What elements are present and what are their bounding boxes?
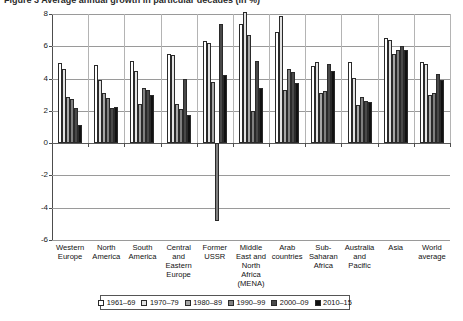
legend: 1961–691970–791980–891990–992000–092010–…: [100, 295, 350, 310]
legend-item[interactable]: 2000–09: [271, 299, 308, 307]
group-separator: [450, 14, 451, 143]
category-label: FormerUSSR: [197, 243, 233, 261]
legend-swatch-icon: [98, 300, 104, 306]
category-axis-labels: WesternEuropeNorthAmericaSouthAmericaCen…: [52, 243, 450, 301]
x-tick-mark: [305, 143, 306, 147]
x-tick-mark: [161, 143, 162, 147]
x-tick-mark: [197, 143, 198, 147]
group-separator: [378, 14, 379, 143]
legend-label: 2000–09: [280, 299, 309, 307]
group-separator: [341, 14, 342, 143]
legend-swatch-icon: [315, 300, 321, 306]
category-label: WesternEurope: [52, 243, 88, 261]
bar: [259, 88, 263, 143]
legend-label: 1980–89: [193, 299, 222, 307]
x-tick-mark: [341, 143, 342, 147]
figure-caption: Figure 3 Average annual growth in partic…: [0, 0, 463, 9]
group-separator: [88, 14, 89, 143]
bar: [215, 143, 219, 220]
bar: [404, 50, 408, 144]
x-tick-mark: [414, 143, 415, 147]
x-tick-mark: [269, 143, 270, 147]
x-tick-mark: [124, 143, 125, 147]
legend-label: 1961–69: [107, 299, 136, 307]
legend-item[interactable]: 1970–79: [141, 299, 178, 307]
gridline--6: [52, 240, 450, 241]
group-separator: [269, 14, 270, 143]
group-separator: [305, 14, 306, 143]
y-axis-title: Average annual growth in particular deca…: [0, 0, 9, 14]
bar: [78, 125, 82, 144]
legend-label: 1990–99: [237, 299, 266, 307]
y-tick-label: 0: [44, 139, 48, 147]
bar: [223, 75, 227, 144]
y-tick-label: -2: [41, 171, 48, 179]
bar: [295, 83, 299, 143]
legend-swatch-icon: [271, 300, 277, 306]
y-tick-label: 4: [44, 75, 48, 83]
group-separator: [233, 14, 234, 143]
y-tick-label: 6: [44, 42, 48, 50]
legend-swatch-icon: [185, 300, 191, 306]
group-separator: [414, 14, 415, 143]
legend-item[interactable]: 1980–89: [185, 299, 222, 307]
y-tick-mark: [49, 240, 52, 241]
legend-item[interactable]: 1990–99: [228, 299, 265, 307]
y-tick-label: 2: [44, 107, 48, 115]
legend-item[interactable]: 1961–69: [98, 299, 135, 307]
bar: [150, 95, 154, 143]
legend-swatch-icon: [228, 300, 234, 306]
y-tick-label: -6: [41, 236, 48, 244]
group-separator: [197, 14, 198, 143]
bar: [211, 82, 215, 143]
category-label: MiddleEast andNorthAfrica(MENA): [233, 243, 269, 288]
bar: [331, 71, 335, 144]
figure-container: Figure 3 Average annual growth in partic…: [0, 0, 463, 321]
x-tick-mark: [88, 143, 89, 147]
category-label: Asia: [378, 243, 414, 252]
group-separator: [124, 14, 125, 143]
legend-swatch-icon: [141, 300, 147, 306]
x-tick-mark: [450, 143, 451, 147]
bar: [368, 102, 372, 143]
bar-groups: [52, 14, 450, 240]
bar: [187, 115, 191, 143]
legend-item[interactable]: 2010–15: [315, 299, 352, 307]
category-label: NorthAmerica: [88, 243, 124, 261]
x-tick-mark: [233, 143, 234, 147]
y-tick-label: 8: [44, 10, 48, 18]
group-separator: [161, 14, 162, 143]
category-label: CentralandEasternEurope: [161, 243, 197, 279]
bar: [114, 107, 118, 143]
category-label: Arabcountries: [269, 243, 305, 261]
category-label: Worldaverage: [414, 243, 450, 261]
y-tick-label: -4: [41, 204, 48, 212]
plot-area: -6-4-202468: [52, 14, 450, 240]
x-tick-mark: [378, 143, 379, 147]
legend-label: 2010–15: [323, 299, 352, 307]
category-label: SouthAmerica: [124, 243, 160, 261]
category-label: AustraliaandPacific: [341, 243, 377, 270]
bar: [440, 80, 444, 143]
legend-label: 1970–79: [150, 299, 179, 307]
category-label: Sub-SaharanAfrica: [305, 243, 341, 270]
figure-caption-text: Figure 3 Average annual growth in partic…: [4, 0, 463, 5]
